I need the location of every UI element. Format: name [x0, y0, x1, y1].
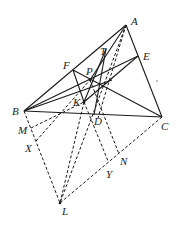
label-C: C [161, 120, 169, 132]
dashed-BL [24, 111, 60, 203]
segment-AP [90, 25, 126, 80]
label-M: M [17, 124, 28, 136]
segment-BC [24, 111, 162, 117]
label-A: A [130, 15, 138, 27]
segment-FC [73, 70, 162, 117]
label-E: E [142, 50, 150, 62]
label-B: B [12, 105, 19, 117]
point-P [89, 79, 92, 82]
label-X: X [24, 142, 33, 154]
dashed-XP [36, 80, 90, 141]
dashed-KL [60, 102, 84, 203]
point-K [83, 101, 86, 104]
segment-KE [84, 56, 138, 102]
dashed-KY [84, 102, 108, 161]
label-P: P [85, 65, 93, 77]
label-T: T [100, 45, 107, 57]
point-L [59, 202, 62, 205]
label-D: D [93, 115, 102, 127]
label-L: L [61, 205, 68, 217]
label-N: N [119, 155, 128, 167]
segment-BP-ext [24, 80, 112, 111]
geometry-diagram: A B C D E F P T K M X N Y L [0, 0, 176, 227]
dashed-CL [60, 117, 162, 203]
segment-BE [24, 56, 138, 111]
stray-dot [156, 80, 157, 81]
label-Y: Y [106, 168, 114, 180]
label-K: K [72, 96, 81, 108]
segment-AC [126, 25, 162, 117]
label-F: F [62, 59, 70, 71]
